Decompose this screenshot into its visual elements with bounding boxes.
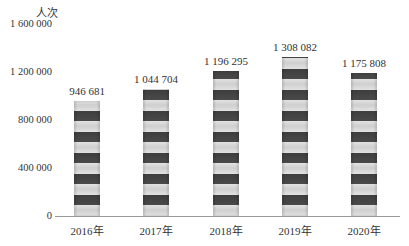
x-tick-label: 2018年: [196, 222, 256, 238]
y-tick-800000: 800 000: [0, 114, 52, 126]
bar-2020年: [351, 73, 377, 216]
bar-2019年: [282, 57, 308, 216]
value-label: 946 681: [47, 85, 127, 97]
y-tick-400000: 400 000: [0, 162, 52, 174]
x-tick-label: 2020年: [334, 222, 394, 238]
value-label: 1 308 082: [255, 41, 335, 53]
value-label: 1 044 704: [116, 73, 196, 85]
bar-2018年: [213, 71, 239, 216]
x-tick-label: 2017年: [126, 222, 186, 238]
x-tick-label: 2016年: [57, 222, 117, 238]
bar-2017年: [143, 89, 169, 216]
bar-2016年: [74, 101, 100, 216]
value-label: 1 175 808: [324, 57, 404, 69]
value-label: 1 196 295: [186, 55, 266, 67]
x-tick-label: 2019年: [265, 222, 325, 238]
y-tick-1600000: 1 600 000: [0, 18, 52, 30]
y-tick-1200000: 1 200 000: [0, 66, 52, 78]
y-tick-0: 0: [0, 210, 52, 222]
x-axis-line: [57, 216, 400, 217]
